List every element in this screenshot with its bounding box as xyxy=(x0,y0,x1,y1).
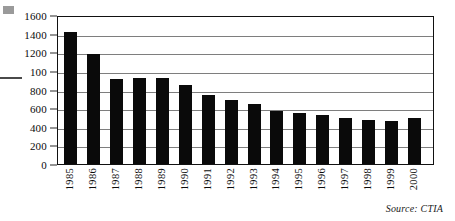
y-axis-tick-label: 0 xyxy=(41,160,47,171)
bar xyxy=(270,111,283,164)
y-axis-tick-mark xyxy=(50,71,57,72)
y-axis-tick-mark xyxy=(50,16,57,17)
bar xyxy=(133,78,146,164)
bar xyxy=(110,79,123,164)
y-axis-tick-mark xyxy=(50,127,57,128)
bar xyxy=(225,100,238,164)
x-axis-tick-label: 1993 xyxy=(247,168,260,190)
y-axis-tick-mark xyxy=(50,146,57,147)
bar xyxy=(385,121,398,164)
bar xyxy=(293,113,306,164)
bar xyxy=(316,115,329,164)
x-axis-tick-label: 1995 xyxy=(292,168,305,190)
y-axis-tick-label: 1600 xyxy=(24,11,47,22)
x-axis-tick-label: 1996 xyxy=(315,168,328,190)
x-axis-tick-label: 1985 xyxy=(63,168,76,190)
y-axis-tick-label: 1200 xyxy=(24,48,47,59)
bar xyxy=(202,95,215,164)
bar xyxy=(339,118,352,164)
x-axis-tick-label: 1989 xyxy=(155,168,168,190)
x-axis-tick-label: 1987 xyxy=(109,168,122,190)
y-axis-tick-label: 200 xyxy=(30,141,47,152)
x-axis-tick-label: 1994 xyxy=(269,168,282,190)
x-axis: 1985198619871988198919901991199219931994… xyxy=(57,168,434,212)
y-axis-tick-mark xyxy=(50,53,57,54)
x-axis-tick-label: 1988 xyxy=(132,168,145,190)
bar xyxy=(408,118,421,164)
x-axis-tick-label: 1986 xyxy=(86,168,99,190)
x-axis-tick-label: 1998 xyxy=(361,168,374,190)
bar xyxy=(179,85,192,164)
x-axis-tick-label: 1991 xyxy=(201,168,214,190)
x-axis-tick-label: 1990 xyxy=(178,168,191,190)
y-axis-tick-mark xyxy=(50,90,57,91)
y-axis: 0200400600800100120014001600 xyxy=(0,0,57,170)
chart-page: 0200400600800100120014001600 19851986198… xyxy=(0,0,455,221)
y-axis-tick-mark xyxy=(50,34,57,35)
y-axis-tick-mark xyxy=(50,109,57,110)
x-axis-tick-label: 2000 xyxy=(407,168,420,190)
bar-series xyxy=(58,17,433,164)
bar xyxy=(248,104,261,164)
source-note: Source: CTIA xyxy=(386,203,443,214)
y-axis-tick-label: 100 xyxy=(30,66,47,77)
bar xyxy=(362,120,375,164)
y-axis-tick-label: 800 xyxy=(30,85,47,96)
x-axis-tick-label: 1997 xyxy=(338,168,351,190)
x-axis-tick-label: 1999 xyxy=(384,168,397,190)
y-axis-tick-mark xyxy=(50,165,57,166)
bar xyxy=(87,54,100,164)
y-axis-tick-label: 600 xyxy=(30,104,47,115)
y-axis-tick-label: 1400 xyxy=(24,29,47,40)
y-axis-tick-label: 400 xyxy=(30,122,47,133)
x-axis-tick-label: 1992 xyxy=(224,168,237,190)
plot-area xyxy=(57,16,434,165)
bar-chart: 0200400600800100120014001600 19851986198… xyxy=(0,0,455,221)
bar xyxy=(64,32,77,164)
bar xyxy=(156,78,169,165)
